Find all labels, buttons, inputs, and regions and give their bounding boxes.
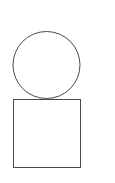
square-shape xyxy=(14,100,81,168)
diagram-canvas xyxy=(0,0,115,183)
circle-shape xyxy=(13,32,80,99)
